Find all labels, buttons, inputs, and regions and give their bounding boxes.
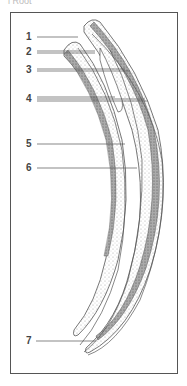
label-1: 1 — [26, 32, 32, 42]
label-3: 3 — [26, 65, 32, 75]
label-5: 5 — [26, 139, 32, 149]
label-6: 6 — [26, 163, 32, 173]
label-7: 7 — [26, 336, 32, 346]
label-4: 4 — [26, 94, 32, 104]
root-diagram — [0, 0, 187, 386]
label-2: 2 — [26, 47, 32, 57]
